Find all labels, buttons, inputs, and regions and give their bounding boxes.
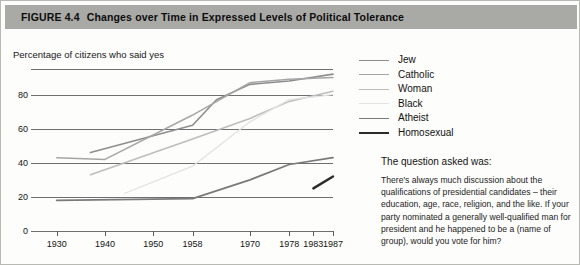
legend-swatch xyxy=(359,74,389,75)
figure-container: FIGURE 4.4Changes over Time in Expressed… xyxy=(0,0,580,265)
y-tick-label: 40 xyxy=(6,158,28,168)
legend-swatch xyxy=(359,60,389,61)
legend-item: Black xyxy=(359,97,575,112)
x-tick-label: 1940 xyxy=(95,239,115,249)
x-tick xyxy=(250,231,251,236)
question-text: There's always much discussion about the… xyxy=(381,174,577,247)
legend-swatch xyxy=(359,118,389,119)
legend-item: Jew xyxy=(359,53,575,68)
legend-label: Atheist xyxy=(398,113,429,123)
y-tick-label: 20 xyxy=(6,192,28,202)
x-tick-label: 1950 xyxy=(143,239,163,249)
x-tick xyxy=(289,231,290,236)
question-heading: The question asked was: xyxy=(381,156,577,167)
series-line xyxy=(90,74,333,152)
x-axis-line xyxy=(31,231,333,232)
plot-panel: Percentage of citizens who said yes 0204… xyxy=(1,31,351,265)
figure-title-bar: FIGURE 4.4Changes over Time in Expressed… xyxy=(5,5,577,29)
legend-swatch xyxy=(359,103,389,104)
legend-label: Woman xyxy=(398,84,432,94)
question-block: The question asked was: There's always m… xyxy=(381,156,577,247)
series-lines xyxy=(31,69,333,231)
figure-title: FIGURE 4.4Changes over Time in Expressed… xyxy=(5,11,404,23)
legend-swatch xyxy=(359,89,389,90)
legend-item: Homosexual xyxy=(359,126,575,141)
y-tick-label: 0 xyxy=(6,226,28,236)
x-tick xyxy=(153,231,154,236)
y-tick-label: 80 xyxy=(6,90,28,100)
series-line xyxy=(124,95,333,194)
legend-item: Atheist xyxy=(359,111,575,126)
legend-label: Catholic xyxy=(398,70,434,80)
x-tick-label: 1983 xyxy=(303,239,323,249)
x-tick-label: 1978 xyxy=(279,239,299,249)
x-tick-label: 1930 xyxy=(47,239,67,249)
figure-number: FIGURE 4.4 xyxy=(21,11,80,23)
legend-label: Homosexual xyxy=(398,128,454,138)
y-tick-label: 60 xyxy=(6,124,28,134)
legend-label: Jew xyxy=(398,55,416,65)
figure-title-text: Changes over Time in Expressed Levels of… xyxy=(87,11,404,23)
x-tick xyxy=(193,231,194,236)
x-tick-label: 1970 xyxy=(240,239,260,249)
legend-item: Catholic xyxy=(359,68,575,83)
y-axis-caption: Percentage of citizens who said yes xyxy=(13,49,164,60)
x-tick xyxy=(57,231,58,236)
legend-swatch xyxy=(359,132,389,134)
x-tick-label: 1987 xyxy=(323,239,343,249)
series-line xyxy=(313,176,333,188)
legend-item: Woman xyxy=(359,82,575,97)
legend-label: Black xyxy=(398,99,422,109)
x-tick xyxy=(313,231,314,236)
series-line xyxy=(57,78,333,160)
x-tick xyxy=(333,231,334,236)
x-tick xyxy=(105,231,106,236)
x-tick-label: 1958 xyxy=(183,239,203,249)
legend: JewCatholicWomanBlackAtheistHomosexual xyxy=(359,53,575,140)
